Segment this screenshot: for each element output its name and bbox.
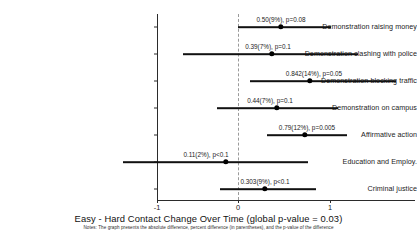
estimate-label-0: 0.50(9%), p=0.08	[256, 17, 305, 23]
confidence-interval-6	[220, 188, 316, 190]
forest-plot-figure: Demonstration raising money Demonstratio…	[0, 0, 417, 238]
y-tick-1	[154, 54, 157, 55]
y-tick-0	[154, 27, 157, 28]
y-tick-6	[154, 189, 157, 190]
y-tick-2	[154, 81, 157, 82]
x-axis-title: Easy - Hard Contact Change Over Time (gl…	[0, 214, 417, 223]
confidence-interval-5	[123, 161, 308, 163]
x-axis-spine	[157, 200, 415, 201]
confidence-interval-0	[238, 26, 331, 28]
point-estimate-5	[223, 159, 228, 164]
y-tick-3	[154, 108, 157, 109]
estimate-label-5: 0.11(2%), p<0.1	[183, 152, 228, 158]
estimate-label-3: 0.44(7%), p=0.1	[247, 98, 293, 104]
x-tick-label-0: -1	[154, 204, 161, 211]
figure-notes: Notes: The graph presents the absolute d…	[0, 226, 417, 231]
estimate-label-6: 0.303(9%), p<0.1	[240, 179, 289, 185]
x-tick-label-1: 0	[236, 204, 240, 211]
estimate-label-2: 0.842(14%), p=0.05	[286, 71, 342, 77]
confidence-interval-2	[250, 80, 396, 82]
estimate-label-4: 0.79(12%), p=0.005	[279, 125, 335, 131]
plot-area: Demonstration raising money Demonstratio…	[0, 0, 417, 238]
y-axis-spine	[157, 14, 158, 200]
estimate-label-1: 0.39(7%), p=0.1	[245, 44, 291, 50]
x-tick-label-2: 1	[328, 204, 332, 211]
y-tick-4	[154, 135, 157, 136]
